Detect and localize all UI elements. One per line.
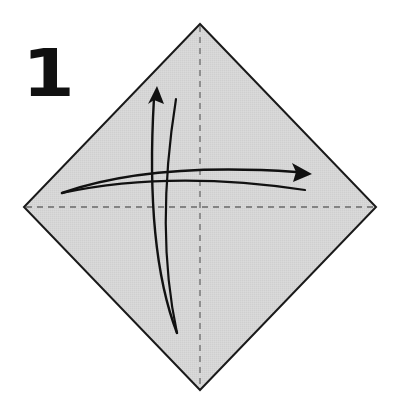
origami-diagram [0, 0, 400, 412]
diagram-canvas: 1 [0, 0, 400, 412]
